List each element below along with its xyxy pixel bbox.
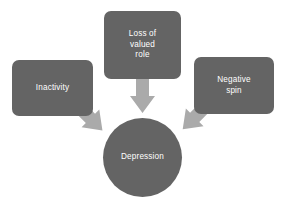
node-loss-of-valued-role-label: Loss of valued role: [126, 29, 159, 61]
node-inactivity[interactable]: Inactivity: [12, 60, 93, 116]
node-inactivity-label: Inactivity: [33, 83, 72, 94]
node-negative-spin[interactable]: Negative spin: [194, 57, 274, 114]
node-depression[interactable]: Depression: [103, 118, 182, 197]
arrow-loss-of-valued-role-to-depression: [130, 79, 155, 113]
node-loss-of-valued-role[interactable]: Loss of valued role: [104, 11, 181, 79]
diagram-canvas: Inactivity Loss of valued role Negative …: [0, 0, 286, 214]
node-depression-label: Depression: [121, 152, 164, 163]
node-negative-spin-label: Negative spin: [214, 75, 254, 96]
